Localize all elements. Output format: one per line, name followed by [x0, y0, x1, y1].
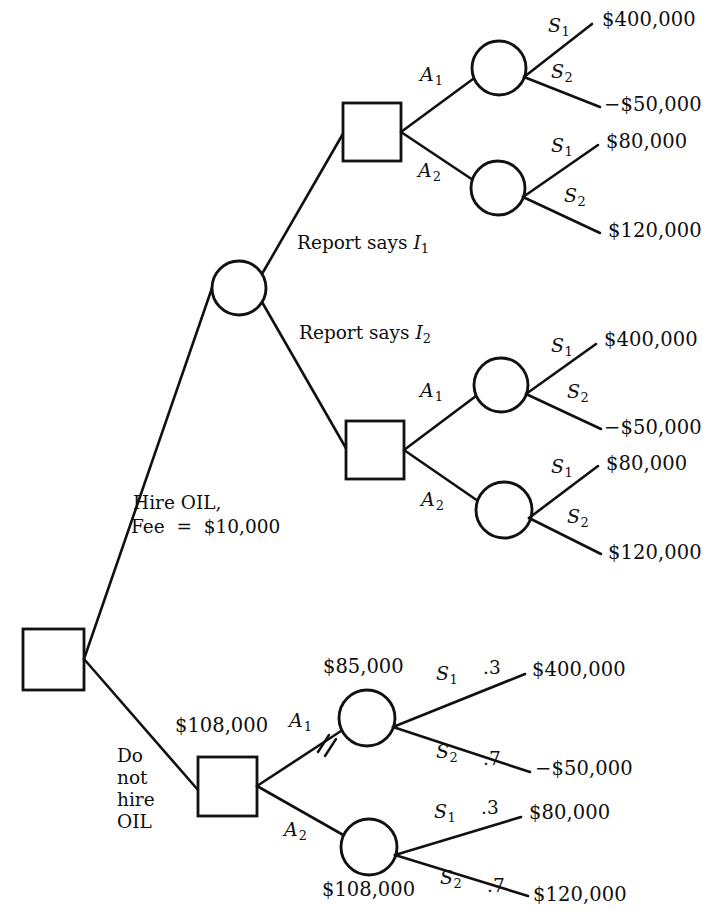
state-label-i2-a1-s2: S2: [567, 380, 589, 405]
action-subscript: 2: [435, 498, 444, 513]
edge-i2-a1: [404, 396, 476, 450]
action-subscript: 1: [434, 389, 443, 404]
state-symbol: S: [564, 184, 577, 206]
state-symbol: S: [551, 455, 564, 477]
action-label-i2-a1: A1: [420, 379, 443, 404]
action-symbol: A: [420, 379, 434, 401]
branch-label-no-hire-line3: hire: [117, 789, 155, 811]
state-label-i2-a2-s1: S1: [551, 455, 573, 480]
action-subscript: 2: [298, 828, 307, 843]
action-label-i2-a2: A2: [421, 488, 444, 513]
probability-no-hire-a2-s1: .3: [481, 797, 499, 819]
state-subscript: 2: [580, 390, 589, 405]
state-symbol: S: [440, 866, 453, 888]
edge-i2-a1-s2: [526, 394, 601, 429]
state-subscript: 1: [447, 810, 456, 825]
state-label-i1-a1-s2: S2: [551, 60, 573, 85]
decision-tree-diagram: Hire OIL, Fee = $10,000 Do not hire OIL …: [0, 0, 715, 923]
action-label-no-hire-a2: A2: [284, 818, 307, 843]
report-chance-node[interactable]: [212, 261, 266, 315]
edge-no-hire-a1-s2: [393, 727, 530, 772]
payoff-i2-a1-s2: −$50,000: [604, 416, 702, 439]
payoff-i2-a2-s2: $120,000: [608, 541, 702, 564]
chance-node-i1-a2[interactable]: [471, 161, 525, 215]
chance-node-no-hire-a1[interactable]: [339, 690, 395, 746]
payoff-i1-a2-s2: $120,000: [608, 219, 702, 242]
state-symbol: S: [548, 14, 561, 36]
branch-label-no-hire-line4: OIL: [117, 811, 152, 833]
report-i1-prefix: Report says: [297, 232, 413, 253]
payoff-no-hire-a2-s2: $120,000: [533, 883, 627, 906]
state-symbol: S: [551, 134, 564, 156]
state-subscript: 2: [580, 515, 589, 530]
chance-node-i2-a1[interactable]: [474, 358, 528, 412]
probability-no-hire-a2-s2: .7: [487, 875, 505, 897]
action-label-i1-a2: A2: [418, 159, 441, 184]
ev-label-no-hire-a1: $85,000: [323, 655, 404, 678]
report-i1-symbol: I: [413, 232, 420, 253]
state-subscript: 1: [564, 144, 573, 159]
edge-i1-a2-s2: [523, 197, 600, 233]
chance-node-i1-a1[interactable]: [472, 41, 526, 95]
state-subscript: 1: [449, 672, 458, 687]
payoff-i2-a2-s1: $80,000: [606, 452, 687, 475]
action-subscript: 1: [434, 73, 443, 88]
state-symbol: S: [567, 505, 580, 527]
chance-node-no-hire-a2[interactable]: [341, 819, 397, 875]
branch-label-hire-oil-line1: Hire OIL,: [133, 492, 221, 514]
state-label-i2-a2-s2: S2: [567, 505, 589, 530]
branch-label-report-i2: Report says I2: [299, 322, 431, 346]
state-symbol: S: [567, 380, 580, 402]
report-i2-subscript: 2: [423, 331, 431, 346]
payoff-i1-a1-s1: $400,000: [602, 8, 696, 31]
state-label-no-hire-a2-s2: S2: [440, 866, 462, 891]
state-label-no-hire-a2-s1: S1: [434, 800, 456, 825]
state-subscript: 1: [564, 465, 573, 480]
root-decision-node[interactable]: [23, 629, 84, 690]
state-symbol: S: [436, 740, 449, 762]
edge-i2-a2-s2: [529, 518, 601, 554]
decision-node-i2[interactable]: [346, 421, 404, 479]
action-symbol: A: [418, 159, 432, 181]
ev-label-no-hire-a2: $108,000: [322, 878, 415, 901]
payoff-no-hire-a2-s1: $80,000: [529, 801, 610, 824]
action-label-i1-a1: A1: [420, 63, 443, 88]
state-subscript: 2: [453, 876, 462, 891]
ev-label-no-hire-decision: $108,000: [175, 714, 268, 737]
state-label-i2-a1-s1: S1: [551, 334, 573, 359]
action-symbol: A: [421, 488, 435, 510]
state-label-no-hire-a1-s2: S2: [436, 740, 458, 765]
action-symbol: A: [420, 63, 434, 85]
action-subscript: 2: [432, 169, 441, 184]
decision-node-no-hire[interactable]: [198, 757, 257, 816]
branch-label-no-hire-line1: Do: [117, 745, 143, 767]
payoff-no-hire-a1-s1: $400,000: [532, 658, 626, 681]
state-symbol: S: [551, 60, 564, 82]
report-i1-subscript: 1: [421, 241, 429, 256]
edge-root-hire-oil: [84, 288, 212, 659]
payoff-i2-a1-s1: $400,000: [604, 328, 698, 351]
probability-no-hire-a1-s2: .7: [483, 748, 501, 770]
probability-no-hire-a1-s1: .3: [483, 657, 501, 679]
branch-label-no-hire-line2: not: [117, 767, 148, 789]
branch-label-hire-oil-line2: Fee = $10,000: [131, 516, 280, 538]
state-label-i1-a1-s1: S1: [548, 14, 570, 39]
state-label-i1-a2-s1: S1: [551, 134, 573, 159]
action-label-no-hire-a1: A1: [289, 709, 312, 734]
edge-no-hire-a1-s1: [393, 674, 525, 727]
report-i2-symbol: I: [415, 322, 422, 343]
edge-no-hire-a1: [257, 731, 341, 786]
state-label-no-hire-a1-s1: S1: [436, 662, 458, 687]
payoff-no-hire-a1-s2: −$50,000: [535, 757, 633, 780]
action-subscript: 1: [303, 719, 312, 734]
state-symbol: S: [436, 662, 449, 684]
state-symbol: S: [551, 334, 564, 356]
action-symbol: A: [284, 818, 298, 840]
state-subscript: 2: [577, 194, 586, 209]
report-i2-prefix: Report says: [299, 322, 415, 343]
chance-node-i2-a2[interactable]: [476, 482, 532, 538]
state-subscript: 2: [449, 750, 458, 765]
branch-label-report-i1: Report says I1: [297, 232, 429, 256]
action-symbol: A: [289, 709, 303, 731]
decision-node-i1[interactable]: [343, 103, 401, 161]
